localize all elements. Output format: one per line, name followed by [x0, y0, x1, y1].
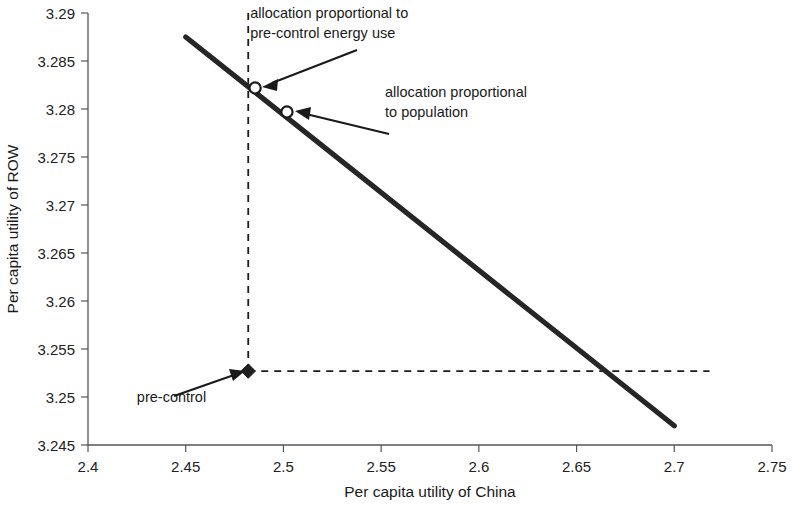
- x-tick-label: 2.4: [78, 458, 99, 475]
- x-tick-label: 2.5: [273, 458, 294, 475]
- annotation-energy-use-line-1: allocation proportional to: [250, 5, 408, 21]
- x-tick-label: 2.45: [171, 458, 200, 475]
- x-axis-tick-labels: 2.42.452.52.552.62.652.72.75: [78, 458, 787, 475]
- x-axis-ticks: [88, 445, 772, 452]
- x-axis-title: Per capita utility of China: [344, 483, 516, 500]
- y-tick-label: 3.29: [46, 5, 75, 22]
- annotation-arrows: [174, 50, 389, 396]
- x-tick-label: 2.65: [562, 458, 591, 475]
- x-axis: 2.42.452.52.552.62.652.72.75: [78, 445, 787, 475]
- arrow-population: [295, 107, 389, 134]
- data-point-markers: [241, 82, 292, 378]
- reference-lines: [248, 13, 709, 371]
- marker-pre-control: [241, 364, 255, 378]
- x-tick-label: 2.6: [468, 458, 489, 475]
- x-tick-label: 2.55: [367, 458, 396, 475]
- annotation-pre-control: pre-control: [137, 389, 206, 405]
- y-tick-label: 3.255: [37, 341, 75, 358]
- marker-allocation-proportional-to-pre-control-energy-use: [249, 82, 260, 93]
- annotation-pre-control-line-1: pre-control: [137, 389, 206, 405]
- x-tick-label: 2.7: [664, 458, 685, 475]
- y-tick-label: 3.25: [46, 389, 75, 406]
- y-axis-title: Per capita utility of ROW: [4, 144, 21, 313]
- annotation-energy-use: allocation proportional topre-control en…: [250, 5, 408, 41]
- annotation-energy-use-line-2: pre-control energy use: [250, 25, 395, 41]
- y-tick-label: 3.285: [37, 53, 75, 70]
- annotation-population-line-2: to population: [385, 104, 468, 120]
- y-tick-label: 3.26: [46, 293, 75, 310]
- y-tick-label: 3.28: [46, 101, 75, 118]
- marker-allocation-proportional-to-population: [281, 106, 292, 117]
- chart-figure: 3.2453.253.2553.263.2653.273.2753.283.28…: [0, 0, 792, 514]
- y-axis-ticks: [81, 13, 88, 445]
- annotation-labels: allocation proportional topre-control en…: [137, 5, 527, 405]
- y-axis: 3.2453.253.2553.263.2653.273.2753.283.28…: [37, 5, 88, 454]
- y-tick-label: 3.27: [46, 197, 75, 214]
- arrow-energy-use: [262, 50, 357, 91]
- y-tick-label: 3.245: [37, 437, 75, 454]
- y-tick-label: 3.265: [37, 245, 75, 262]
- annotation-population-line-1: allocation proportional: [385, 84, 527, 100]
- annotation-population: allocation proportionalto population: [385, 84, 527, 120]
- y-tick-label: 3.275: [37, 149, 75, 166]
- y-axis-tick-labels: 3.2453.253.2553.263.2653.273.2753.283.28…: [37, 5, 75, 454]
- x-tick-label: 2.75: [757, 458, 786, 475]
